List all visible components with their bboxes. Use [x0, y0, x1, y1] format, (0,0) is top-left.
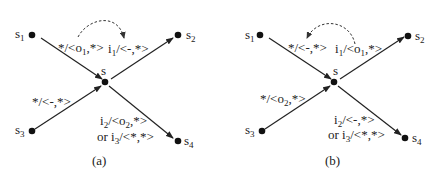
node-s-label: s: [101, 63, 106, 78]
node-s2-label: s2: [186, 27, 196, 44]
node-s2-dot: [405, 33, 412, 40]
edge-label-s3-s: */<-,*>: [32, 94, 71, 109]
edge-label-s-s4-line1: i2/<o2,*>: [100, 113, 147, 130]
edge-label-s3-s: */<o2,*>: [260, 91, 306, 108]
node-s4-label: s4: [412, 130, 422, 147]
edge-label-s-s4-line2: or i3/<*,*>: [328, 127, 385, 144]
node-s2-label: s2: [415, 28, 425, 45]
node-s3-dot: [259, 128, 266, 135]
edge-label-s-s4-line2: or i3/<*,*>: [97, 129, 154, 146]
node-s1-dot: [257, 32, 264, 39]
node-s-dot: [102, 79, 109, 86]
edge-label-s1-s: */<-,*>: [288, 40, 327, 55]
panel-b: s1 s s2 s3 s4 */<-,*> i1/<o1,*> */<o2,*>…: [245, 24, 425, 168]
panel-a: s1 s s2 s3 s4 */<o1,*> i1/<-,*> */<-,*> …: [15, 21, 196, 168]
node-s4-dot: [175, 138, 182, 145]
edge-label-s-s2: i1/<o1,*>: [335, 41, 382, 58]
node-s2-dot: [175, 32, 182, 39]
edge-label-s1-s: */<o1,*>: [58, 40, 104, 57]
caption-b: (b): [325, 153, 340, 168]
node-s4-label: s4: [184, 133, 194, 150]
diagram-canvas: s1 s s2 s3 s4 */<o1,*> i1/<-,*> */<-,*> …: [0, 0, 437, 177]
node-s4-dot: [402, 135, 409, 142]
node-s1-dot: [29, 32, 36, 39]
node-s1-label: s1: [15, 26, 25, 43]
node-s-dot: [331, 79, 338, 86]
node-s3-label: s3: [15, 122, 25, 139]
caption-a: (a): [92, 153, 106, 168]
node-s3-dot: [29, 128, 36, 135]
node-s1-label: s1: [245, 27, 255, 44]
node-s3-label: s3: [245, 122, 255, 139]
dashed-arrow: [78, 21, 124, 38]
edge-label-s-s2: i1/<-,*>: [108, 41, 148, 58]
node-s-label: s: [333, 63, 338, 78]
